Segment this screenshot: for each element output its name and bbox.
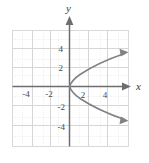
y-tick-label-2: 2 (59, 63, 64, 73)
y-tick-label-4: 4 (59, 44, 64, 54)
y-tick-label-neg2: -2 (58, 102, 66, 112)
coordinate-plane-svg: x y -4 -2 2 4 4 2 -2 -4 (0, 0, 149, 163)
y-axis-arrowhead (66, 16, 74, 25)
y-tick-label-neg4: -4 (58, 122, 66, 132)
y-axis-label: y (65, 2, 71, 14)
x-tick-label-neg4: -4 (22, 89, 30, 99)
graph-figure: x y -4 -2 2 4 4 2 -2 -4 (0, 0, 149, 163)
x-tick-label-4: 4 (103, 90, 108, 100)
x-tick-label-neg2: -2 (45, 89, 53, 99)
x-axis-label: x (135, 80, 141, 92)
